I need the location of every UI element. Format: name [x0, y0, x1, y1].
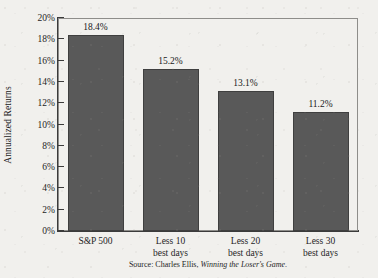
source-prefix: Source: Charles Ellis, — [129, 260, 201, 269]
y-tick-2: 2% — [20, 204, 64, 216]
y-axis-title: Annualized Returns — [1, 60, 15, 190]
x-axis-label-4: Less 30best days — [278, 236, 364, 259]
y-tick-mark — [57, 17, 64, 18]
x-axis-label-line1: Less 20 — [231, 236, 260, 246]
bar-2 — [143, 69, 199, 231]
bar-1 — [68, 35, 124, 231]
source-suffix: . — [285, 260, 287, 269]
y-tick-mark — [57, 81, 64, 82]
y-tick-label: 6% — [42, 161, 55, 173]
bar-value-label-4: 11.2% — [281, 99, 361, 110]
y-tick-8: 8% — [20, 140, 64, 152]
bar-3 — [218, 91, 274, 231]
y-tick-mark — [57, 124, 64, 125]
y-tick-6: 6% — [20, 161, 64, 173]
y-tick-label: 2% — [42, 204, 55, 216]
y-tick-label: 18% — [38, 33, 55, 45]
y-tick-16: 16% — [20, 55, 64, 67]
y-tick-label: 10% — [38, 119, 55, 131]
y-tick-10: 10% — [20, 119, 64, 131]
x-axis-label-line1: S&P 500 — [78, 236, 112, 246]
x-axis-label-line2: best days — [278, 248, 364, 260]
x-axis-label-3: Less 20best days — [203, 236, 289, 259]
x-axis-label-2: Less 10best days — [128, 236, 214, 259]
y-tick-label: 20% — [38, 12, 55, 24]
bar-value-label-3: 13.1% — [206, 78, 286, 89]
y-tick-mark — [57, 166, 64, 167]
x-axis-label-line2: best days — [203, 248, 289, 260]
y-tick-mark — [57, 230, 64, 231]
y-tick-18: 18% — [20, 33, 64, 45]
y-tick-label: 4% — [42, 182, 55, 194]
x-axis-label-line2: best days — [128, 248, 214, 260]
y-tick-mark — [57, 187, 64, 188]
y-axis-title-text: Annualized Returns — [3, 86, 13, 164]
y-tick-label: 12% — [38, 97, 55, 109]
bar-4 — [293, 112, 349, 231]
y-tick-12: 12% — [20, 97, 64, 109]
y-tick-mark — [57, 209, 64, 210]
source-book-title: Winning the Loser's Game — [200, 260, 285, 269]
y-tick-label: 16% — [38, 55, 55, 67]
x-axis-label-line1: Less 10 — [156, 236, 185, 246]
x-axis-label-1: S&P 500 — [53, 236, 139, 248]
source-note: Source: Charles Ellis, Winning the Loser… — [58, 260, 358, 270]
y-tick-14: 14% — [20, 76, 64, 88]
y-tick-mark — [57, 145, 64, 146]
y-tick-mark — [57, 102, 64, 103]
x-axis-label-line1: Less 30 — [306, 236, 335, 246]
bar-value-label-2: 15.2% — [131, 56, 211, 67]
y-tick-mark — [57, 38, 64, 39]
bar-value-label-1: 18.4% — [56, 22, 136, 33]
y-tick-mark — [57, 60, 64, 61]
y-tick-4: 4% — [20, 182, 64, 194]
y-tick-label: 14% — [38, 76, 55, 88]
bar-chart: Annualized Returns 0%2%4%6%8%10%12%14%16… — [0, 0, 378, 278]
y-tick-label: 8% — [42, 140, 55, 152]
